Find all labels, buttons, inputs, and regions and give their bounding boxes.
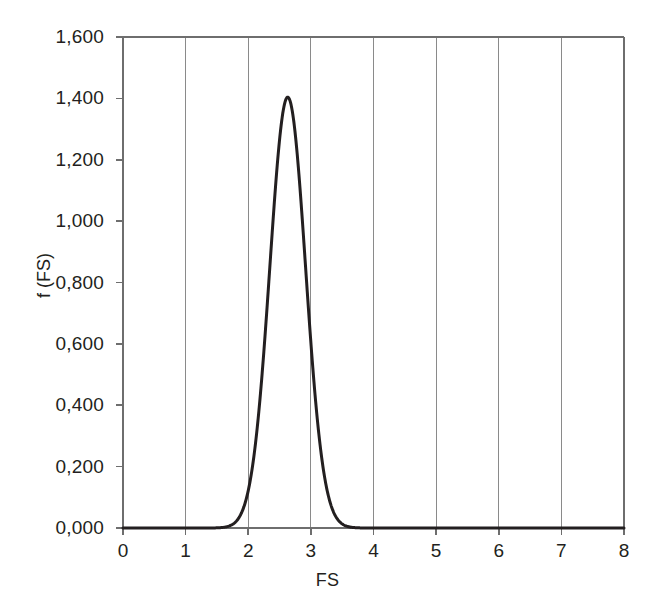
chart-container: 1,6001,4001,2001,0000,8000,6000,4000,200… xyxy=(0,0,655,608)
x-axis-tick-label: 5 xyxy=(416,540,456,562)
x-axis-tick-label: 1 xyxy=(166,540,206,562)
x-axis-tick-label: 4 xyxy=(354,540,394,562)
y-axis-title: f (FS) xyxy=(34,246,55,306)
x-axis-tick-label: 3 xyxy=(291,540,331,562)
x-axis-tick-label: 7 xyxy=(541,540,581,562)
x-axis-title: FS xyxy=(0,570,655,591)
x-axis-tick-labels: 012345678 xyxy=(0,0,655,608)
x-axis-tick-label: 6 xyxy=(479,540,519,562)
x-axis-tick-label: 0 xyxy=(103,540,143,562)
x-axis-tick-label: 2 xyxy=(228,540,268,562)
x-axis-tick-label: 8 xyxy=(604,540,644,562)
